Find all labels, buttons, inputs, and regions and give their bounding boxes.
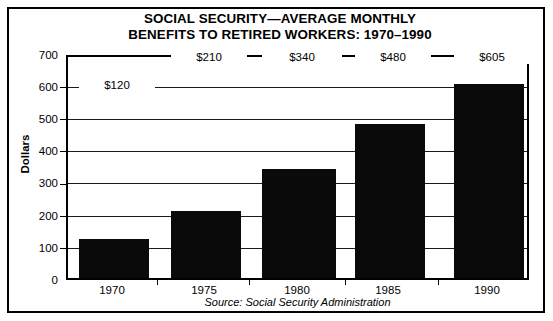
bar-1985[interactable] (355, 124, 425, 278)
y-tick-label-700: 700 (39, 49, 58, 61)
bar-label-1980: $340 (262, 51, 342, 64)
bar-label-1985: $480 (355, 51, 431, 64)
bar-1980[interactable] (262, 169, 336, 278)
plot-area: $120 $210 $340 $480 $605 (66, 55, 529, 280)
bars-layer: $120 $210 $340 $480 $605 (68, 57, 527, 278)
y-tick-label-600: 600 (39, 81, 58, 93)
y-tick-label-500: 500 (39, 113, 58, 125)
bar-1975[interactable] (171, 211, 241, 279)
y-tick-label-200: 200 (39, 210, 58, 222)
x-tick-label-1990: 1990 (452, 283, 522, 297)
x-tick-label-1975: 1975 (169, 283, 239, 297)
chart-title-line-1: SOCIAL SECURITY—AVERAGE MONTHLY (60, 11, 500, 27)
x-tick-label-1985: 1985 (353, 283, 423, 297)
chart-title: SOCIAL SECURITY—AVERAGE MONTHLY BENEFITS… (60, 11, 500, 43)
y-tick-label-0: 0 (52, 274, 58, 286)
source-note: Source: Social Security Administration (66, 296, 529, 308)
y-tick-label-100: 100 (39, 242, 58, 254)
chart-title-line-2: BENEFITS TO RETIRED WORKERS: 1970–1990 (60, 27, 500, 43)
bar-label-1970: $120 (79, 79, 155, 92)
x-tick-label-1970: 1970 (77, 283, 147, 297)
bar-label-1990: $605 (454, 51, 530, 64)
chart-figure: SOCIAL SECURITY—AVERAGE MONTHLY BENEFITS… (0, 0, 553, 321)
bar-label-1975: $210 (171, 51, 247, 64)
x-tick-label-1980: 1980 (260, 283, 334, 297)
y-tick-label-300: 300 (39, 177, 58, 189)
bar-1970[interactable] (79, 239, 149, 278)
bar-1990[interactable] (454, 84, 524, 279)
y-tick-label-400: 400 (39, 145, 58, 157)
y-axis-labels: 700 600 500 400 300 200 100 0 (0, 0, 66, 321)
